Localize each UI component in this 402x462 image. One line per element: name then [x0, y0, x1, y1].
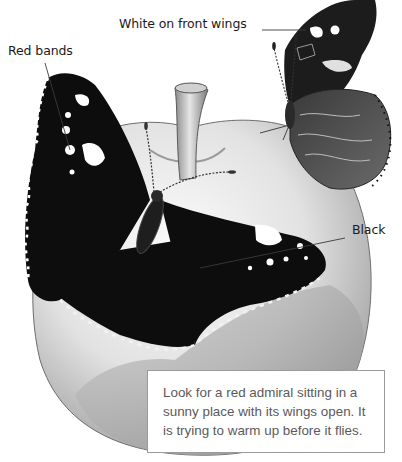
label-black: Black — [352, 222, 385, 237]
caption-text: Look for a red admiral sitting in a sunn… — [163, 383, 378, 440]
label-red-bands: Red bands — [8, 43, 73, 58]
label-white-on-front-wings: White on front wings — [119, 16, 247, 31]
diagram-figure: Red bands White on front wings Black Loo… — [0, 0, 402, 462]
caption-box: Look for a red admiral sitting in a sunn… — [147, 370, 385, 453]
